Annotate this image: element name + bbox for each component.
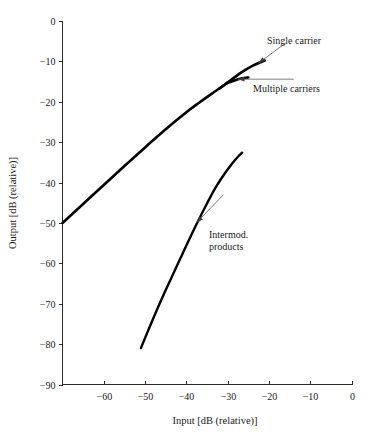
y-tick-label: −10 <box>40 56 56 67</box>
x-axis-title: Input [dB (relative)] <box>172 415 257 427</box>
annotation-single-carrier: Single carrier <box>267 35 322 46</box>
x-tick-label: −30 <box>221 391 237 402</box>
curve-single-carrier <box>63 61 265 223</box>
y-tick-label: 0 <box>51 16 56 27</box>
figure-root: 0−10−20−30−40−50−60−70−80−90 −60−50−40−3… <box>0 0 370 441</box>
annotation-intermod-products-line2: products <box>209 241 244 252</box>
x-tick-label: −20 <box>262 391 278 402</box>
y-tick-label: −80 <box>40 339 56 350</box>
annotation-intermod-products-line1: Intermod. <box>209 229 248 240</box>
y-axis-ticks <box>59 22 63 386</box>
annotation-leader-single-carrier <box>259 43 286 63</box>
y-tick-label: −40 <box>40 178 56 189</box>
annotation-multiple-carriers: Multiple carriers <box>253 83 320 94</box>
y-tick-label: −20 <box>40 97 56 108</box>
y-tick-label: −90 <box>40 380 56 391</box>
chart-canvas: 0−10−20−30−40−50−60−70−80−90 −60−50−40−3… <box>0 0 370 441</box>
y-tick-label: −30 <box>40 137 56 148</box>
x-tick-label: −60 <box>97 391 113 402</box>
x-tick-label: −10 <box>303 391 319 402</box>
y-tick-label: −70 <box>40 299 56 310</box>
x-tick-label: −50 <box>138 391 154 402</box>
y-axis-tick-labels: 0−10−20−30−40−50−60−70−80−90 <box>40 16 56 391</box>
y-axis-title: Output [dB (relative)] <box>7 157 19 249</box>
x-tick-label: −40 <box>179 391 195 402</box>
x-axis-ticks <box>105 381 353 385</box>
y-tick-label: −50 <box>40 218 56 229</box>
annotation-labels: Single carrier Multiple carriers Intermo… <box>209 35 322 252</box>
x-tick-label: 0 <box>350 391 355 402</box>
data-curves <box>63 61 265 349</box>
x-axis-tick-labels: −60−50−40−30−20−100 <box>97 391 355 402</box>
y-tick-label: −60 <box>40 258 56 269</box>
